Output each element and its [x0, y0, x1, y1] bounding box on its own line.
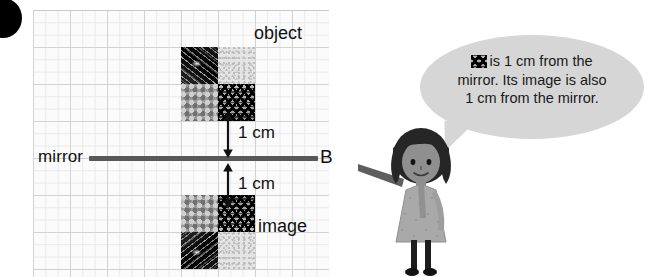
girl-pointing-illustration	[358, 126, 476, 277]
image-label: image	[258, 216, 307, 237]
measurement-above-mirror: 1 cm	[219, 112, 289, 158]
diagram-stage: object image mirror B 1 cm 1 cm is 1 cm …	[0, 0, 664, 277]
double-arrow-up-down-icon	[219, 163, 237, 209]
point-b-label: B	[320, 146, 333, 168]
grid-top-edge	[33, 10, 329, 11]
speech-line-1: is 1 cm from the	[489, 53, 592, 69]
object-cell-bottom-left	[181, 84, 218, 121]
object-cell-top-left	[181, 47, 218, 84]
mirror-label: mirror	[38, 147, 83, 167]
speech-line-2: mirror. Its image is also	[457, 72, 606, 88]
inline-shape-swatch	[471, 55, 487, 68]
image-cell-bottom-left	[181, 232, 218, 269]
measurement-above-label: 1 cm	[238, 123, 275, 143]
measurement-below-label: 1 cm	[238, 174, 275, 194]
speech-line-3: 1 cm from the mirror.	[465, 90, 599, 106]
object-label: object	[254, 23, 302, 44]
image-cell-bottom-right	[218, 232, 255, 269]
speech-bubble-text: is 1 cm from the mirror. Its image is al…	[426, 52, 638, 108]
page-corner-dot	[0, 0, 22, 38]
double-arrow-up-down-icon	[219, 112, 237, 158]
object-cell-top-right	[218, 47, 255, 84]
image-cell-top-left	[181, 195, 218, 232]
measurement-below-mirror: 1 cm	[219, 163, 289, 209]
